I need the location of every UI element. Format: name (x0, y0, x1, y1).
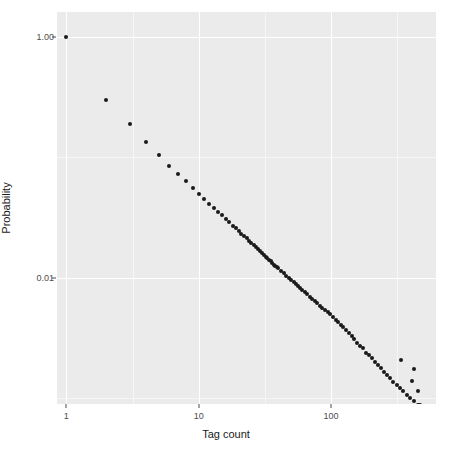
data-point (191, 186, 195, 190)
data-point (144, 140, 148, 144)
data-point (64, 35, 68, 39)
data-point (176, 172, 180, 176)
gridline-vertical (331, 12, 332, 404)
data-point (401, 389, 405, 393)
data-point (128, 122, 132, 126)
data-point (227, 220, 231, 224)
data-point (104, 98, 108, 102)
y-tick-mark (52, 36, 56, 37)
y-tick-mark (52, 277, 56, 278)
gridline-vertical-minor (133, 12, 134, 404)
data-point (361, 346, 365, 350)
x-tick-mark (66, 404, 67, 408)
data-point (197, 192, 201, 196)
gridline-horizontal (57, 278, 436, 279)
data-point (220, 213, 224, 217)
data-point (167, 164, 171, 168)
x-tick-label: 100 (324, 411, 339, 421)
gridline-vertical-minor (397, 12, 398, 404)
x-tick-mark (331, 404, 332, 408)
gridline-horizontal-minor (57, 157, 436, 158)
chart-figure: 1.000.01 110100 Tag count Probability (0, 0, 452, 469)
gridline-vertical (66, 12, 67, 404)
data-point-tail (418, 403, 422, 404)
data-point (202, 197, 206, 201)
data-point (184, 179, 188, 183)
data-point-tail (416, 389, 420, 393)
gridline-horizontal (57, 37, 436, 38)
x-tick-label: 1 (64, 411, 69, 421)
y-axis-title: Probability (0, 182, 12, 233)
plot-panel (57, 12, 436, 404)
gridline-horizontal-minor (57, 398, 436, 399)
data-point (412, 399, 416, 403)
data-point-tail (399, 358, 403, 362)
gridline-vertical (199, 12, 200, 404)
x-tick-mark (198, 404, 199, 408)
data-point (207, 202, 211, 206)
data-point-tail (410, 379, 414, 383)
data-point-tail (412, 367, 416, 371)
x-axis-title: Tag count (0, 428, 452, 440)
data-point (212, 206, 216, 210)
gridline-vertical-minor (265, 12, 266, 404)
x-tick-label: 10 (194, 411, 204, 421)
